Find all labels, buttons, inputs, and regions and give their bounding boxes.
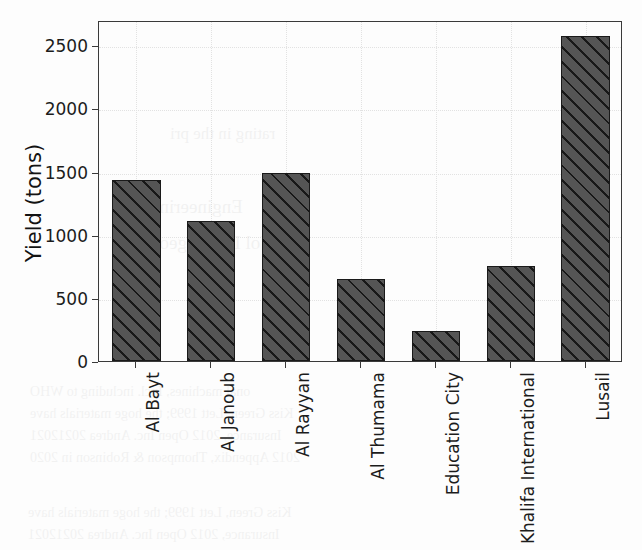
bar[interactable] (412, 331, 460, 361)
bar[interactable] (187, 221, 235, 361)
chart-page: rating in the pri Engineering de Nol Lag… (0, 0, 642, 550)
bar[interactable] (112, 180, 160, 361)
x-tick-mark (585, 362, 586, 368)
x-tick-label: Al Rayyan (293, 372, 313, 457)
bleed-text-line: 2012 Appendix, Thompson & Robinson in 20… (30, 450, 300, 466)
x-tick-label: Al Thumama (368, 372, 388, 480)
x-tick-label: Lusail (593, 372, 613, 421)
x-tick-label: Education City (443, 372, 463, 495)
y-tick-label: 2000 (45, 99, 88, 119)
plot-inner (99, 22, 621, 361)
x-tick-mark (285, 362, 286, 368)
y-tick-label: 1500 (45, 163, 88, 183)
gridline-horizontal (99, 174, 621, 175)
x-tick-mark (210, 362, 211, 368)
x-tick-mark (510, 362, 511, 368)
bar[interactable] (561, 36, 609, 361)
gridline-horizontal (99, 47, 621, 48)
y-axis-label: Yield (tons) (22, 73, 46, 333)
x-tick-label: Al Janoub (218, 372, 238, 452)
x-tick-mark (135, 362, 136, 368)
x-tick-label: Khalifa International (518, 372, 538, 544)
bar[interactable] (262, 173, 310, 361)
y-tick-mark (92, 362, 98, 363)
x-tick-mark (435, 362, 436, 368)
bleed-text-line: Insurance, 2012 Open Inc. Andrea 2021202… (28, 527, 280, 543)
gridline-vertical (436, 22, 437, 361)
bar[interactable] (337, 279, 385, 361)
bar[interactable] (487, 266, 535, 361)
gridline-horizontal (99, 110, 621, 111)
y-tick-label: 0 (77, 352, 88, 372)
x-tick-label: Al Bayt (143, 372, 163, 433)
plot-area (98, 21, 622, 362)
y-tick-label: 1000 (45, 226, 88, 246)
bleed-text-line: Kiss Green, Lett 1999; the hoge material… (28, 505, 292, 521)
y-tick-label: 500 (56, 289, 88, 309)
gridline-horizontal (99, 237, 621, 238)
x-tick-mark (360, 362, 361, 368)
y-tick-label: 2500 (45, 36, 88, 56)
